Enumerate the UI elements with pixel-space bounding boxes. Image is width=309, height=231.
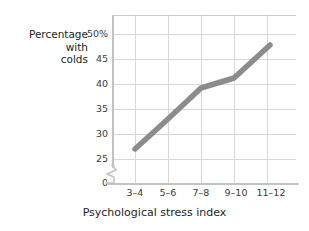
y-tick-label-25: 25 xyxy=(64,154,108,164)
y-tick-label-40: 40 xyxy=(64,79,108,89)
y-tick-label-35: 35 xyxy=(64,104,108,114)
x-axis-tick-labels: 3–4 5–6 7–8 9–10 11–12 xyxy=(113,187,296,201)
x-axis-title: Psychological stress index xyxy=(0,206,309,219)
data-polyline xyxy=(135,45,270,149)
y-tick-label-45: 45 xyxy=(64,54,108,64)
y-tick-label-30: 30 xyxy=(64,129,108,139)
y-tick-label-0: 0 xyxy=(64,178,108,188)
y-tick-label-50: 50% xyxy=(64,29,108,39)
y-axis-tick-labels: 50% 45 40 35 30 25 0 xyxy=(64,0,108,231)
data-series-line xyxy=(113,15,296,183)
x-axis-line xyxy=(108,183,299,185)
x-tick-label-7-8: 7–8 xyxy=(181,187,221,199)
x-tick-label-11-12: 11–12 xyxy=(251,187,291,199)
x-tick-label-9-10: 9–10 xyxy=(216,187,256,199)
